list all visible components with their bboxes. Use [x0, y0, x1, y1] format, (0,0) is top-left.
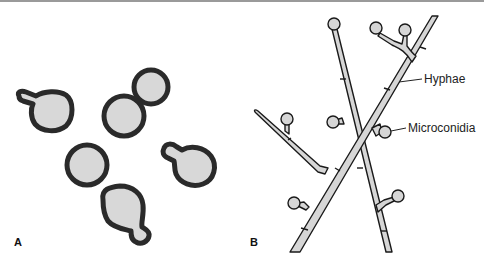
panel-label-a: A	[14, 236, 22, 248]
septa	[288, 47, 426, 231]
microconidia-leader	[391, 128, 406, 131]
daughter-cell	[134, 70, 168, 104]
budding-cell-2	[163, 144, 214, 185]
microconidium-ll	[288, 197, 300, 209]
branch-top-right	[378, 33, 416, 62]
microconidium-labeled	[379, 126, 391, 138]
microconidium-l1	[327, 116, 339, 128]
microconidium-top-tip	[328, 18, 340, 30]
hyphae-leader	[399, 79, 422, 82]
hyphae-label: Hyphae	[424, 72, 465, 86]
pyriform-cell	[103, 186, 149, 243]
microconidium-tr2	[399, 24, 411, 36]
microconidium-bl	[281, 113, 293, 125]
panel-a-cells	[18, 70, 214, 243]
budding-cell-1	[18, 91, 72, 130]
microconidium-tr1	[370, 22, 382, 34]
mother-cell	[104, 96, 144, 136]
round-cell	[67, 145, 107, 185]
microconidium-l2	[392, 190, 404, 202]
microconidia-label: Microconidia	[408, 121, 475, 135]
panel-label-b: B	[250, 236, 258, 248]
